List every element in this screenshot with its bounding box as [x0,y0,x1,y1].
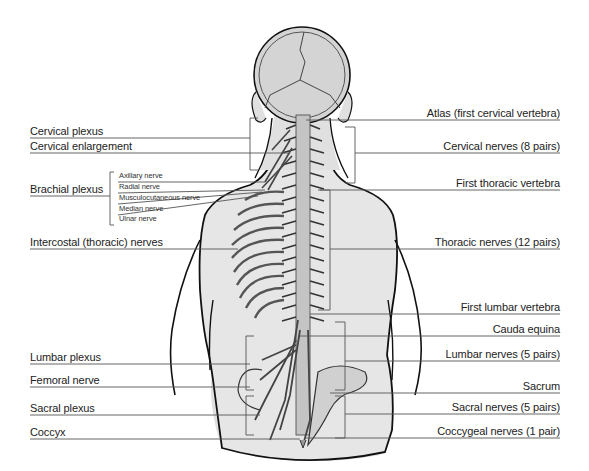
label-first-thoracic-vertebra: First thoracic vertebra [456,177,560,189]
label-axillary-nerve: Axillary nerve [119,172,163,180]
label-cervical-nerves: Cervical nerves (8 pairs) [443,140,560,152]
label-cauda-equina: Cauda equina [493,323,560,335]
label-first-lumbar-vertebra: First lumbar vertebra [461,301,560,313]
label-sacral-plexus: Sacral plexus [30,402,95,414]
label-cervical-plexus: Cervical plexus [30,125,103,137]
label-sacral-nerves: Sacral nerves (5 pairs) [452,401,560,413]
label-coccygeal-nerves: Coccygeal nerves (1 pair) [437,425,560,437]
label-femoral-nerve: Femoral nerve [30,374,100,386]
label-intercostal-nerves: Intercostal (thoracic) nerves [30,236,163,248]
label-lumbar-plexus: Lumbar plexus [30,351,101,363]
label-atlas: Atlas (first cervical vertebra) [427,107,560,119]
label-radial-nerve: Radial nerve [119,183,160,191]
spinal-cord [296,115,310,435]
label-median-nerve: Median nerve [119,205,163,213]
label-ulnar-nerve: Ulnar nerve [119,215,157,223]
label-brachial-plexus: Brachial plexus [30,183,103,195]
label-musculocutaneous-nerve: Musculocutaneous nerve [119,194,200,202]
label-lumbar-nerves: Lumbar nerves (5 pairs) [446,348,560,360]
label-cervical-enlargement: Cervical enlargement [30,140,132,152]
label-thoracic-nerves: Thoracic nerves (12 pairs) [435,236,560,248]
label-coccyx: Coccyx [30,426,65,438]
spinal-nerves-diagram: Cervical plexus Cervical enlargement Bra… [0,0,589,471]
label-sacrum: Sacrum [523,380,560,392]
